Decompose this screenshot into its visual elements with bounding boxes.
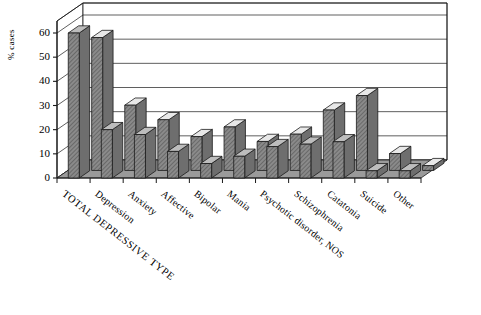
y-tick-label: 0: [24, 171, 50, 183]
y-tick-label: 40: [24, 74, 50, 86]
chart-figure: % cases 6050403020100 TOTAL DEPRESSIVE T…: [0, 0, 481, 315]
y-tick-label: 20: [24, 123, 50, 135]
y-tick-label: 10: [24, 147, 50, 159]
y-tick-label: 60: [24, 26, 50, 38]
y-tick-label: 50: [24, 50, 50, 62]
y-tick-label: 30: [24, 99, 50, 111]
chart-plot-area: [0, 0, 481, 315]
